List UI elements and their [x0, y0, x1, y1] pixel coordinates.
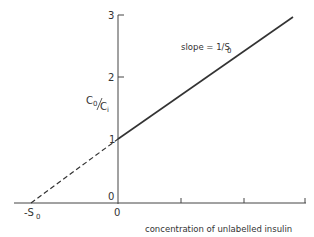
y-axis-label: C 0 C i	[86, 95, 109, 114]
svg-text:0: 0	[93, 100, 97, 108]
x-tick-label-neg-s0: -S 0	[24, 207, 40, 221]
y-tick-label-3: 3	[108, 10, 114, 21]
svg-text:-S: -S	[24, 207, 34, 218]
slope-annotation: slope = 1/S 0	[181, 42, 231, 55]
solid-data-line	[118, 17, 293, 139]
svg-text:0: 0	[36, 213, 40, 221]
y-tick-label-2: 2	[108, 72, 114, 83]
svg-text:i: i	[107, 106, 109, 114]
chart: 3 2 1 0 C 0 C i -S 0 0 concentration of …	[0, 0, 314, 237]
svg-text:slope = 1/S: slope = 1/S	[181, 42, 230, 52]
dashed-extrapolation-line	[31, 139, 118, 203]
y-tick-label-0: 0	[108, 191, 114, 202]
svg-text:C: C	[100, 101, 107, 112]
x-axis-label: concentration of unlabelled insulin	[145, 224, 292, 234]
y-tick-label-1: 1	[109, 134, 115, 145]
svg-text:C: C	[86, 95, 93, 106]
svg-text:0: 0	[227, 47, 231, 55]
x-tick-label-origin: 0	[114, 207, 120, 218]
